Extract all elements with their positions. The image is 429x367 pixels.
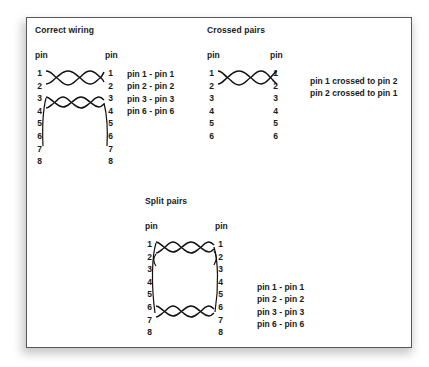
diagram-canvas: Correct wiring pin pin 1 2 3 4 5 6 7 8 1… <box>0 0 429 367</box>
notes-correct-wiring: pin 1 - pin 1 pin 2 - pin 2 pin 3 - pin … <box>127 68 174 118</box>
notes-split-pairs: pin 1 - pin 1 pin 2 - pin 2 pin 3 - pin … <box>257 281 304 331</box>
section-split-pairs: Split pairs pin pin 1 2 3 4 5 6 7 8 1 2 … <box>132 196 412 346</box>
diagram-panel: Correct wiring pin pin 1 2 3 4 5 6 7 8 1… <box>26 17 412 348</box>
section-crossed-pairs: Crossed pairs pin pin 1 2 3 4 5 6 1 2 3 … <box>207 18 413 178</box>
wire-drawing-correct-wiring <box>27 18 207 178</box>
notes-crossed-pairs: pin 1 crossed to pin 2 pin 2 crossed to … <box>310 75 397 100</box>
section-correct-wiring: Correct wiring pin pin 1 2 3 4 5 6 7 8 1… <box>27 18 207 178</box>
